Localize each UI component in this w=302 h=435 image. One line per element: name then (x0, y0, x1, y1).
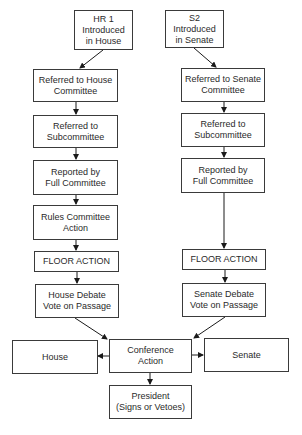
arrow-senate-debate-to-conference (194, 317, 225, 338)
senate-debate-vote-box: Senate Debate Vote on Passage (182, 283, 266, 317)
senate-referred-committee-box: Referred to Senate Committee (181, 68, 265, 102)
arrow-s2-to-senate-committee (194, 48, 216, 67)
arrow-house-debate-to-conference (75, 318, 107, 339)
senate-reported-full-committee-box: Reported by Full Committee (181, 158, 265, 193)
house-reported-full-committee-box: Reported by Full Committee (33, 160, 118, 195)
house-debate-vote-box: House Debate Vote on Passage (35, 284, 119, 318)
conference-action-box: Conference Action (109, 339, 192, 373)
house-floor-action-box: FLOOR ACTION (34, 251, 119, 272)
hr1-introduced-box: HR 1 Introduced in House (74, 10, 133, 50)
house-return-box: House (12, 340, 98, 374)
house-referred-subcommittee-box: Referred to Subcommittee (33, 115, 118, 148)
president-box: President (Signs or Vetoes) (109, 385, 192, 419)
rules-committee-action-box: Rules Committee Action (33, 205, 118, 240)
arrow-hr1-to-house-committee (80, 50, 103, 68)
senate-referred-subcommittee-box: Referred to Subcommittee (181, 113, 265, 147)
s2-introduced-box: S2 Introduced in Senate (165, 10, 224, 48)
senate-return-box: Senate (204, 338, 289, 372)
house-referred-committee-box: Referred to House Committee (33, 69, 118, 102)
senate-floor-action-box: FLOOR ACTION (182, 249, 266, 270)
